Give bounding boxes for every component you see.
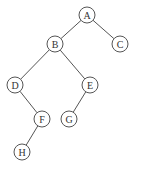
edge-a-b	[61, 20, 81, 38]
tree-node-h: H	[14, 144, 30, 160]
node-label: D	[11, 80, 18, 91]
edge-d-f	[20, 91, 37, 112]
tree-nodes: ABCDEFGH	[7, 7, 128, 160]
edge-a-c	[93, 20, 114, 38]
tree-node-b: B	[47, 36, 63, 52]
edge-b-e	[60, 50, 85, 79]
node-label: C	[117, 39, 124, 50]
tree-node-d: D	[7, 77, 23, 93]
node-label: G	[65, 114, 72, 125]
tree-node-f: F	[34, 111, 50, 127]
node-label: H	[18, 147, 25, 158]
tree-node-c: C	[112, 36, 128, 52]
tree-node-e: E	[82, 77, 98, 93]
edge-e-g	[73, 92, 86, 112]
node-label: A	[83, 10, 91, 21]
binary-tree-diagram: ABCDEFGH	[0, 0, 141, 174]
tree-node-a: A	[79, 7, 95, 23]
node-label: F	[39, 114, 45, 125]
node-label: B	[52, 39, 59, 50]
edge-b-d	[21, 50, 50, 80]
edge-f-h	[26, 126, 38, 145]
tree-node-g: G	[61, 111, 77, 127]
node-label: E	[87, 80, 93, 91]
